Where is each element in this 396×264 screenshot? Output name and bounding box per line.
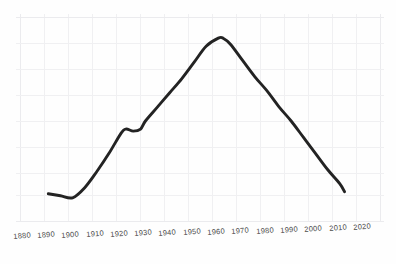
grid-vertical-lines	[21, 14, 381, 222]
line-chart	[0, 0, 396, 264]
chart-container: 1880 1890 1900 1910 1920 1930 1940 1950 …	[0, 0, 396, 264]
grid-horizontal-lines	[16, 18, 384, 222]
